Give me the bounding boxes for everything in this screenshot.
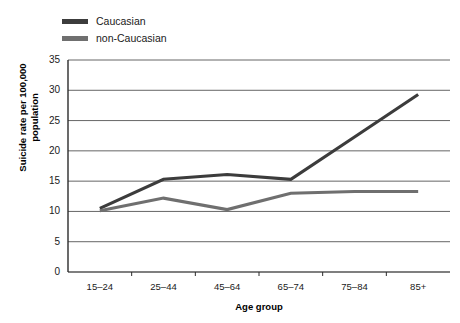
y-tick-label-0: 0 <box>34 267 60 277</box>
plot-area <box>0 0 460 323</box>
x-tick-label-2: 45–64 <box>197 282 257 292</box>
series-line-non-caucasian <box>100 191 418 210</box>
y-tick-label-25: 25 <box>34 116 60 126</box>
x-tick-label-5: 85+ <box>388 282 448 292</box>
x-tick-label-0: 15–24 <box>70 282 130 292</box>
x-tick-label-4: 75–84 <box>325 282 385 292</box>
y-tick-label-10: 10 <box>34 206 60 216</box>
y-tick-label-20: 20 <box>34 146 60 156</box>
y-tick-label-15: 15 <box>34 176 60 186</box>
x-tick-label-3: 65–74 <box>261 282 321 292</box>
y-tick-label-35: 35 <box>34 55 60 65</box>
y-tick-label-5: 5 <box>34 237 60 247</box>
x-tick-label-1: 25–44 <box>134 282 194 292</box>
chart-figure: Caucasian non-Caucasian Suicide rate per… <box>0 0 460 323</box>
y-tick-label-30: 30 <box>34 85 60 95</box>
